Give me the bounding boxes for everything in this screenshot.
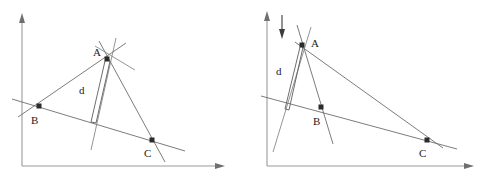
point-c-label: C <box>419 147 426 159</box>
left-panel: d A B C <box>0 0 245 180</box>
point-a-label: A <box>93 46 101 58</box>
line-ac-extended <box>295 42 443 148</box>
x-axis-arrowhead <box>464 163 474 169</box>
downward-arrow <box>279 15 285 39</box>
construction-line-through-a <box>273 27 311 152</box>
geometry-figure: d A B C <box>0 0 489 180</box>
point-b-dot <box>319 105 324 110</box>
point-b-dot <box>37 104 42 109</box>
point-c-dot <box>150 138 155 143</box>
right-construction-lines <box>273 27 311 152</box>
point-c-dot <box>425 138 430 143</box>
x-axis-arrowhead <box>215 163 225 169</box>
distance-label: d <box>276 65 282 77</box>
downward-arrow-head <box>279 29 285 39</box>
point-b-label: B <box>31 114 38 126</box>
distance-edge-right <box>289 47 303 110</box>
left-triangle-lines <box>12 41 185 162</box>
distance-label: d <box>79 84 85 96</box>
construction-line-secondary <box>95 46 135 70</box>
y-axis-arrowhead <box>19 13 25 23</box>
distance-edge-left <box>285 47 300 109</box>
y-axis-arrowhead <box>264 11 270 21</box>
point-a-label: A <box>311 37 319 49</box>
right-panel: d A B C <box>245 0 489 180</box>
left-axes <box>19 13 225 169</box>
left-distance-marker: d <box>79 61 110 123</box>
right-distance-marker: d <box>276 47 303 110</box>
point-a-dot <box>300 43 305 48</box>
point-b-label: B <box>313 115 320 127</box>
point-c-label: C <box>144 147 151 159</box>
point-a-dot <box>105 57 110 62</box>
